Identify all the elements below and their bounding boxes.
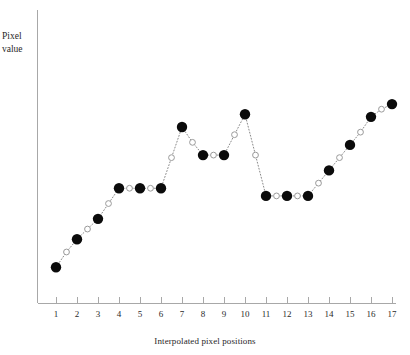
x-tick-label-4: 4 [108,309,130,320]
data-point-filled [324,165,334,175]
x-axis-ticks [57,297,393,303]
data-point-filled [219,150,229,160]
data-point-filled [261,191,271,201]
x-tick-label-9: 9 [213,309,235,320]
x-tick-label-8: 8 [192,309,214,320]
x-tick-label-13: 13 [297,309,319,320]
data-point-filled [93,214,103,224]
x-tick-label-1: 1 [45,309,67,320]
data-point-filled [135,183,145,193]
data-point-open [127,185,133,191]
x-tick-label-5: 5 [129,309,151,320]
data-point-open [64,249,70,255]
x-tick-label-10: 10 [234,309,256,320]
data-point-filled [114,183,124,193]
data-point-open [211,152,217,158]
data-point-open [232,132,238,138]
data-point-filled [345,140,355,150]
x-tick-label-7: 7 [171,309,193,320]
data-point-open [358,129,364,135]
data-point-filled [387,99,397,109]
x-tick-label-11: 11 [255,309,277,320]
data-point-filled [366,112,376,122]
x-tick-label-17: 17 [381,309,403,320]
x-tick-label-3: 3 [87,309,109,320]
data-point-filled [282,191,292,201]
interpolated-points-group [64,106,385,255]
data-point-open [295,193,301,199]
chart-container: Pixel value 1234567891011121314151617 In… [0,0,410,355]
data-point-open [190,139,196,145]
x-tick-label-6: 6 [150,309,172,320]
data-point-filled [303,191,313,201]
data-point-filled [198,150,208,160]
data-point-filled [156,183,166,193]
x-tick-label-15: 15 [339,309,361,320]
plot-area [0,0,410,355]
series-dotted-line [56,104,392,267]
x-tick-label-12: 12 [276,309,298,320]
data-point-filled [240,109,250,119]
x-axis-title: Interpolated pixel positions [0,336,410,346]
data-point-open [169,155,175,161]
data-point-open [253,152,259,158]
x-tick-label-16: 16 [360,309,382,320]
data-point-open [379,106,385,112]
x-tick-label-14: 14 [318,309,340,320]
data-point-open [148,185,154,191]
data-point-filled [72,234,82,244]
data-point-filled [51,262,61,272]
data-point-open [106,201,112,207]
data-point-open [337,155,343,161]
data-point-open [316,180,322,186]
data-point-open [85,226,91,232]
data-point-open [274,193,280,199]
original-points-group [51,99,397,273]
x-tick-label-2: 2 [66,309,88,320]
data-point-filled [177,122,187,132]
